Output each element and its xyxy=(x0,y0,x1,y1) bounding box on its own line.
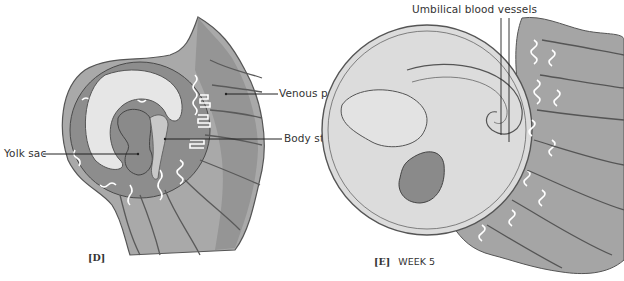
caption-e: [E]WEEK 5 xyxy=(374,256,435,267)
caption-e-letter: [E] xyxy=(374,256,390,267)
panel-d: Venous pool Body stalk Yolk sac [D] xyxy=(0,0,312,281)
caption-d-letter: [D] xyxy=(88,252,105,263)
caption-e-text: WEEK 5 xyxy=(398,256,435,267)
panel-e: Umbilical blood vessels [E]WEEK 5 xyxy=(312,0,624,281)
label-yolk-sac: Yolk sac xyxy=(4,147,46,159)
panel-d-illustration xyxy=(0,0,312,281)
label-umbilical-blood-vessels: Umbilical blood vessels xyxy=(412,3,537,15)
panel-e-illustration xyxy=(312,0,624,281)
caption-d: [D] xyxy=(88,252,113,263)
